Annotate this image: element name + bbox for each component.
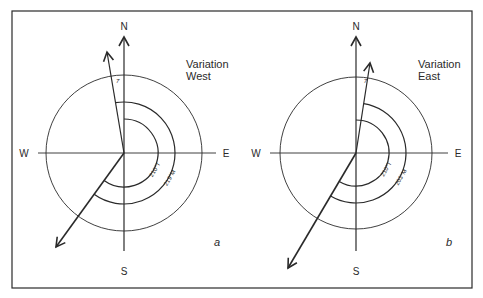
true-bearing-label: 210°T [379, 160, 392, 177]
south-label: S [121, 266, 128, 277]
compass-panel-a: NSWEVariationWest7210°T219°Ma [19, 21, 229, 277]
east-label: E [455, 148, 462, 159]
compass-variation-figure: NSWEVariationWest7210°T219°MaNSWEVariati… [0, 0, 483, 298]
north-label: N [120, 21, 127, 32]
variation-label-line2: East [418, 70, 440, 82]
panel-letter: b [446, 236, 452, 248]
north-label: N [352, 21, 359, 32]
south-label: S [353, 266, 360, 277]
variation-label-line1: Variation [186, 58, 229, 70]
west-label: W [19, 148, 29, 159]
panel-letter: a [214, 236, 220, 248]
course-line [288, 153, 356, 268]
east-label: E [223, 148, 230, 159]
variation-label-line2: West [186, 70, 211, 82]
magnetic-bearing-label: 219°M [163, 169, 177, 187]
west-label: W [251, 148, 261, 159]
diagram-canvas: NSWEVariationWest7210°T219°MaNSWEVariati… [0, 0, 483, 298]
true-bearing-label: 210°T [148, 161, 161, 178]
variation-label-line1: Variation [418, 58, 461, 70]
compass-panel-b: NSWEVariationEast7210°T203°Mb [251, 21, 461, 277]
variation-angle-mark: 7 [116, 78, 120, 84]
magnetic-bearing-label: 203°M [394, 168, 408, 186]
figure-frame [12, 11, 472, 288]
magnetic-north-line [356, 63, 370, 153]
course-line [56, 153, 124, 247]
